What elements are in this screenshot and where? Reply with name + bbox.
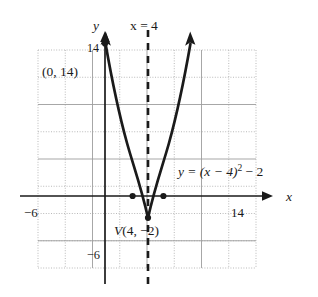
y-intercept-label: (0, 14) [42, 64, 78, 79]
graph-canvas: y x x = 4 14 −6 −6 14 (0, 14) V(4, −2) y… [0, 0, 318, 297]
point-x-intercept-left [130, 193, 136, 199]
x-axis-arrowhead [262, 191, 273, 201]
point-y-intercept [102, 40, 108, 46]
y-tick-label-14: 14 [87, 41, 99, 55]
equation-label: y = (x − 4)2 − 2 [176, 163, 263, 179]
axis-of-symmetry-label: x = 4 [130, 18, 158, 33]
x-tick-label-14: 14 [231, 205, 245, 220]
vertex-label: V(4, −2) [114, 223, 159, 238]
equation-label-rhs: − 2 [242, 164, 263, 179]
x-tick-label-neg6: −6 [24, 205, 38, 220]
marked-points [102, 40, 167, 221]
y-axis-label: y [91, 18, 99, 33]
equation-label-lhs: y = (x − 4) [176, 164, 238, 179]
x-axis-label: x [285, 189, 292, 204]
point-vertex [145, 215, 151, 221]
vertex-label-coords: (4, −2) [122, 223, 159, 238]
point-x-intercept-right [160, 193, 166, 199]
parabola-figure: y x x = 4 14 −6 −6 14 (0, 14) V(4, −2) y… [0, 0, 318, 297]
y-tick-label-neg6: −6 [87, 248, 100, 262]
